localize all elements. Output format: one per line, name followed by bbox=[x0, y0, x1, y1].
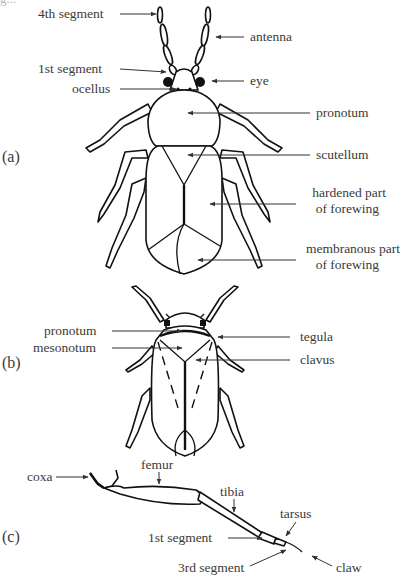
antenna-right bbox=[190, 7, 211, 76]
label-hardened-part-line2: of forewing bbox=[316, 202, 379, 216]
label-hardened-part-line1: hardened part bbox=[312, 186, 386, 200]
label-tibia: tibia bbox=[220, 485, 244, 499]
label-eye: eye bbox=[250, 74, 269, 88]
label-ocellus: ocellus bbox=[72, 82, 110, 96]
panel-tag-c: (c) bbox=[2, 528, 20, 546]
label-mesonotum: mesonotum bbox=[33, 341, 96, 355]
panel-tag-a: (a) bbox=[2, 148, 20, 166]
antenna-left bbox=[158, 7, 179, 76]
label-antenna: antenna bbox=[250, 30, 292, 44]
label-4th-segment: 4th segment bbox=[38, 7, 104, 21]
eye-left bbox=[163, 77, 173, 87]
label-1st-segment-antenna: 1st segment bbox=[38, 62, 102, 76]
panel-b-insect-dorsal bbox=[126, 286, 244, 456]
label-tegula: tegula bbox=[300, 330, 333, 344]
label-femur: femur bbox=[141, 458, 173, 472]
anatomy-drawing bbox=[0, 0, 400, 578]
label-membranous-part-line1: membranous part bbox=[306, 242, 400, 256]
label-scutellum: scutellum bbox=[316, 148, 369, 162]
label-tarsus: tarsus bbox=[280, 507, 312, 521]
label-claw: claw bbox=[336, 561, 361, 575]
eye-right bbox=[195, 77, 205, 87]
label-3rd-segment: 3rd segment bbox=[178, 561, 244, 575]
panel-a-insect-dorsal bbox=[86, 7, 282, 274]
label-clavus: clavus bbox=[300, 353, 335, 367]
label-membranous-part-line2: of forewing bbox=[316, 258, 379, 272]
label-coxa: coxa bbox=[27, 470, 52, 484]
label-pronotum-b: pronotum bbox=[44, 324, 97, 338]
label-pronotum-a: pronotum bbox=[316, 106, 369, 120]
panel-tag-b: (b) bbox=[2, 354, 21, 372]
label-1st-segment-tarsus: 1st segment bbox=[148, 531, 212, 545]
